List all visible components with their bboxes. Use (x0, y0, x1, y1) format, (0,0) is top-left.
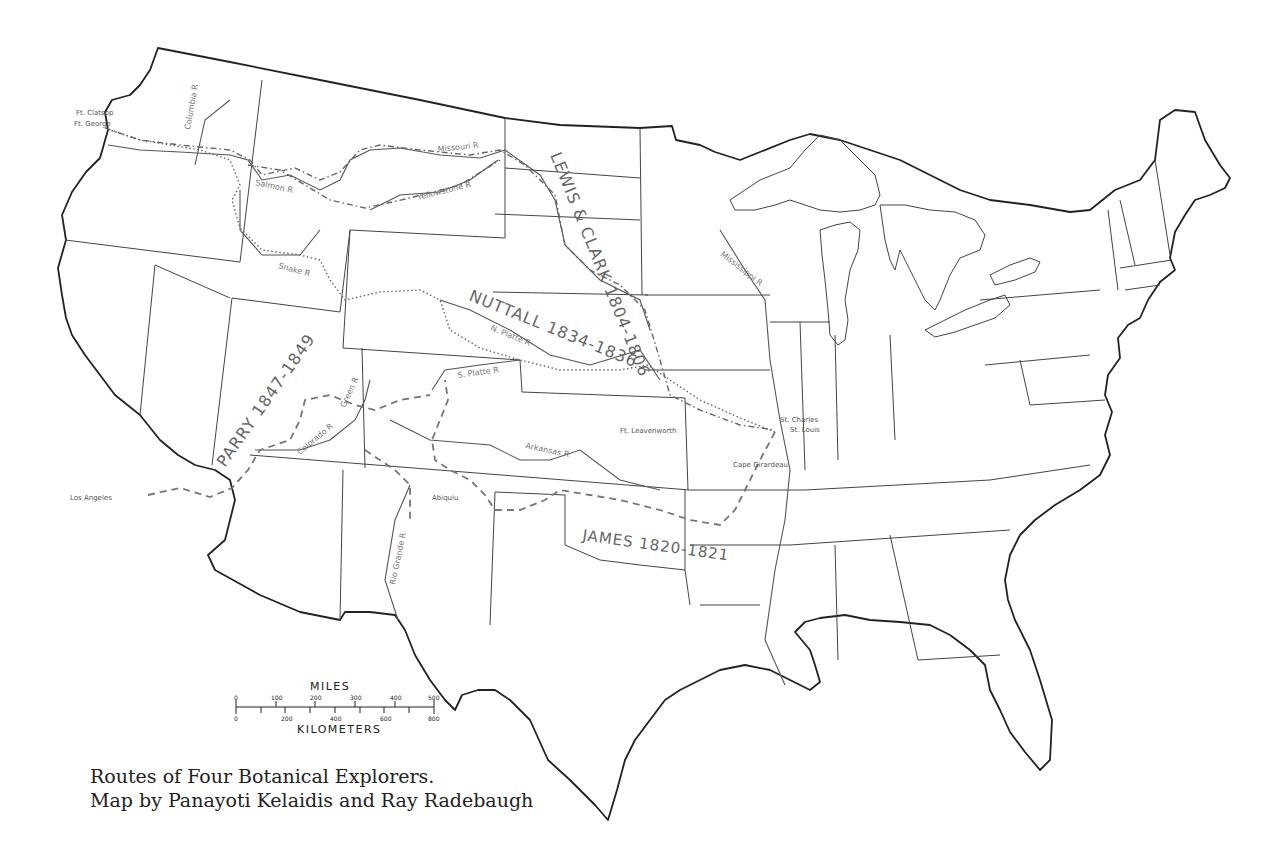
svg-text:200: 200 (281, 715, 293, 722)
svg-text:0: 0 (234, 694, 238, 701)
lake-ontario (990, 258, 1040, 285)
route-parry (148, 395, 430, 520)
label-cape-girardeau: Cape Girardeau (733, 461, 788, 469)
label-snake-river: Snake R (277, 261, 311, 278)
svg-text:300: 300 (350, 694, 362, 701)
map-caption: Routes of Four Botanical Explorers. Map … (90, 764, 533, 812)
label-st-louis: St. Louis (790, 426, 820, 434)
label-ft-clatsop: Ft. Clatsop (76, 109, 114, 117)
label-colorado-river: Colorado R (296, 421, 336, 456)
scale-km-title: KILOMETERS (297, 723, 382, 736)
svg-text:200: 200 (310, 694, 322, 701)
label-ft-leavenworth: Ft. Leavenworth (620, 427, 677, 435)
svg-text:800: 800 (428, 715, 440, 722)
label-los-angeles: Los Angeles (70, 494, 112, 502)
svg-text:600: 600 (380, 715, 392, 722)
route-nuttall (110, 130, 775, 432)
scale-bar: MILES 0 100 200 300 400 500 0 200 400 60… (234, 680, 440, 736)
label-rio-grande-river: Rio Grande R (388, 531, 408, 585)
svg-text:400: 400 (390, 694, 402, 701)
label-st-charles: St. Charles (780, 416, 818, 424)
label-abiquiu: Abiquiu (432, 494, 458, 502)
route-lewis-clark (105, 128, 775, 430)
us-map: LEWIS & CLARK 1804-1806 NUTTALL 1834-183… (0, 0, 1288, 862)
scale-miles-title: MILES (310, 680, 350, 693)
label-arkansas-river: Arkansas R (525, 441, 571, 459)
svg-text:100: 100 (271, 694, 283, 701)
caption-title: Routes of Four Botanical Explorers. (90, 764, 533, 788)
svg-text:500: 500 (428, 694, 440, 701)
label-salmon-river: Salmon R (255, 178, 295, 195)
label-yellowstone-river: Yellowstone R (415, 180, 472, 202)
svg-text:0: 0 (234, 715, 238, 722)
label-ft-george: Ft. George (74, 120, 111, 128)
lake-michigan (820, 222, 860, 345)
label-missouri-river: Missouri R (437, 141, 479, 154)
caption-credit: Map by Panayoti Kelaidis and Ray Radebau… (90, 788, 533, 812)
svg-text:400: 400 (330, 715, 342, 722)
label-columbia-river: Columbia R (183, 83, 200, 130)
route-james (432, 380, 775, 525)
label-mississippi-river: Mississippi R (719, 249, 765, 288)
lake-erie (925, 295, 1010, 337)
label-james: JAMES 1820-1821 (580, 526, 730, 565)
lake-huron (880, 205, 985, 310)
